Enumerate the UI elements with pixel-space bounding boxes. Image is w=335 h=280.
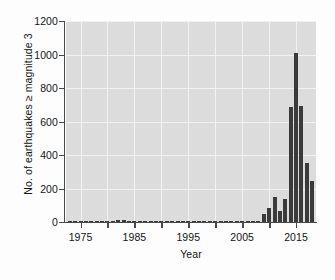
bar bbox=[267, 208, 271, 222]
y-axis-tick-mark bbox=[59, 155, 64, 156]
y-axis-tick-mark bbox=[59, 88, 64, 89]
bar bbox=[310, 181, 314, 222]
gridline-vertical bbox=[242, 21, 243, 222]
x-axis-tick-mark bbox=[296, 223, 297, 228]
y-axis-tick-label: 400 bbox=[22, 149, 58, 161]
x-axis-tick-mark bbox=[242, 223, 243, 228]
gridline-horizontal bbox=[66, 189, 316, 190]
y-axis-tick-label-group: 020040060080010001200 bbox=[22, 0, 58, 280]
y-axis-tick-label: 800 bbox=[22, 82, 58, 94]
gridline-vertical bbox=[188, 21, 189, 222]
gridline-vertical bbox=[134, 21, 135, 222]
y-axis-tick-label: 1000 bbox=[22, 49, 58, 61]
x-axis-line bbox=[64, 222, 317, 223]
y-axis-tick-mark bbox=[59, 21, 64, 22]
y-axis-tick-label: 1200 bbox=[22, 15, 58, 27]
plot-area bbox=[66, 21, 316, 222]
y-axis-tick-mark bbox=[59, 222, 64, 223]
x-axis-tick-mark bbox=[134, 223, 135, 228]
gridline-horizontal bbox=[66, 122, 316, 123]
x-axis-tick-label: 1995 bbox=[166, 231, 210, 243]
gridline-vertical bbox=[161, 21, 162, 222]
x-axis-tick-label: 1975 bbox=[59, 231, 103, 243]
y-axis-tick-mark bbox=[59, 55, 64, 56]
x-axis-tick-mark-minor bbox=[161, 223, 162, 228]
bar bbox=[262, 214, 266, 222]
x-axis-tick-label: 1985 bbox=[112, 231, 156, 243]
bar bbox=[294, 53, 298, 222]
gridline-horizontal bbox=[66, 88, 316, 89]
x-axis-tick-mark-minor bbox=[269, 223, 270, 228]
bar bbox=[305, 163, 309, 222]
y-axis-tick-label: 0 bbox=[22, 216, 58, 228]
gridline-vertical bbox=[107, 21, 108, 222]
gridline-vertical bbox=[215, 21, 216, 222]
x-axis-tick-label: 2005 bbox=[220, 231, 264, 243]
bar bbox=[299, 106, 303, 222]
bar bbox=[289, 107, 293, 222]
x-axis-tick-mark-minor bbox=[107, 223, 108, 228]
gridline-horizontal bbox=[66, 55, 316, 56]
earthquake-bar-chart: No. of earthquakes ≥ magnitude 3 0200400… bbox=[0, 0, 335, 280]
x-axis-tick-mark bbox=[188, 223, 189, 228]
y-axis-tick-label: 200 bbox=[22, 183, 58, 195]
y-axis-tick-mark bbox=[59, 189, 64, 190]
y-axis-tick-label: 600 bbox=[22, 116, 58, 128]
x-axis-title: Year bbox=[66, 248, 316, 260]
gridline-vertical bbox=[81, 21, 82, 222]
x-axis-tick-mark bbox=[81, 223, 82, 228]
gridline-vertical bbox=[269, 21, 270, 222]
x-axis-tick-mark-minor bbox=[215, 223, 216, 228]
bar bbox=[278, 211, 282, 222]
bar bbox=[283, 199, 287, 222]
gridline-horizontal bbox=[66, 155, 316, 156]
y-axis-tick-mark bbox=[59, 122, 64, 123]
gridline-horizontal bbox=[66, 21, 316, 22]
x-axis-tick-label: 2015 bbox=[274, 231, 318, 243]
bar bbox=[273, 197, 277, 222]
